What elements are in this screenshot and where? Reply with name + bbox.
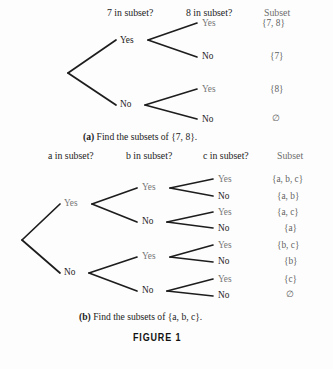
edge-b-ny-yes (170, 245, 213, 257)
subset-a-2: {7} (270, 52, 284, 61)
edge-a-root-yes (68, 40, 116, 73)
edge-a-no-no (145, 105, 197, 119)
subset-b-7: {c} (284, 275, 297, 284)
node-b-level1-yes: Yes (64, 199, 78, 208)
figure-label: FIGURE 1 (133, 331, 181, 343)
node-b-level3-yes-2: Yes (218, 208, 232, 217)
header-a-in-subset: a in subset? (48, 151, 94, 161)
node-b-level3-yes-1: Yes (218, 175, 232, 184)
node-b-level3-no-4: No (218, 291, 229, 300)
node-b-level2-no-2: No (142, 286, 153, 295)
caption-a-prefix: (a) (83, 131, 94, 142)
edge-a-root-no (68, 73, 116, 105)
edge-b-yes-yes (92, 188, 137, 204)
caption-b-text: Find the subsets of {a, b, c}. (91, 311, 203, 322)
node-a-level2-no-2: No (202, 115, 213, 124)
edge-b-yn-yes (167, 212, 213, 222)
header-7-in-subset: 7 in subset? (107, 8, 153, 18)
subset-b-4: {a} (284, 224, 297, 233)
subset-a-1: {7, 8} (262, 19, 285, 28)
caption-b-prefix: (b) (79, 311, 91, 322)
edge-b-ny-no (170, 257, 213, 262)
header-b-in-subset: b in subset? (126, 151, 172, 161)
edge-b-nn-no (167, 291, 213, 296)
caption-a-text: Find the subsets of {7, 8}. (94, 131, 197, 142)
node-a-level2-yes-1: Yes (202, 19, 216, 28)
figure-container: 7 in subset? 8 in subset? Subset Yes No … (0, 0, 333, 369)
node-a-level1-no: No (120, 100, 131, 109)
subset-b-1: {a, b, c} (272, 175, 303, 184)
edge-b-no-no (89, 273, 137, 291)
node-b-level3-no-3: No (218, 257, 229, 266)
edge-b-yy-yes (170, 179, 213, 188)
node-a-level2-no-1: No (202, 52, 213, 61)
edge-b-root-no (22, 240, 60, 273)
edge-a-yes-no (148, 40, 197, 57)
edge-b-yn-no (167, 222, 213, 228)
edge-a-no-yes (145, 89, 197, 105)
header-8-in-subset: 8 in subset? (186, 8, 232, 18)
header-subset-a: Subset (264, 8, 290, 18)
edge-b-yes-no (92, 204, 137, 222)
node-b-level3-yes-4: Yes (218, 275, 232, 284)
subset-b-2: {a, b} (277, 192, 299, 201)
edge-b-nn-yes (167, 279, 213, 291)
caption-panel-b: (b) Find the subsets of {a, b, c}. (79, 311, 202, 322)
subset-b-6: {b} (284, 257, 298, 266)
edge-b-yy-no (170, 188, 213, 196)
node-a-level1-yes: Yes (120, 36, 134, 45)
edge-a-yes-yes (148, 23, 197, 40)
edge-b-root-yes (22, 204, 60, 240)
subset-a-4-empty: ∅ (272, 114, 280, 123)
subset-b-8-empty: ∅ (286, 290, 294, 299)
node-b-level3-no-1: No (218, 192, 229, 201)
node-b-level2-no-1: No (142, 217, 153, 226)
subset-b-3: {a, c} (277, 208, 299, 217)
caption-panel-a: (a) Find the subsets of {7, 8}. (83, 131, 197, 142)
subset-b-5: {b, c} (277, 241, 299, 250)
node-b-level3-no-2: No (218, 224, 229, 233)
header-c-in-subset: c in subset? (203, 151, 249, 161)
edge-b-no-yes (89, 257, 137, 273)
subset-a-3: {8} (270, 85, 284, 94)
node-a-level2-yes-2: Yes (202, 85, 216, 94)
node-b-level2-yes-1: Yes (142, 183, 156, 192)
header-subset-b: Subset (277, 151, 303, 161)
node-b-level3-yes-3: Yes (218, 241, 232, 250)
node-b-level1-no: No (64, 268, 75, 277)
node-b-level2-yes-2: Yes (142, 252, 156, 261)
